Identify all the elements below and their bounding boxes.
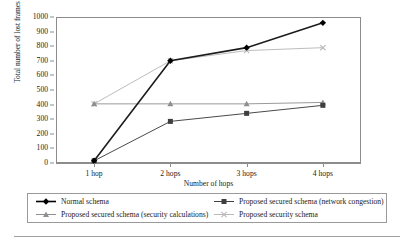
y-tick-label: 0 xyxy=(44,159,48,167)
y-tick-label: 900 xyxy=(37,28,48,36)
legend-label: Normal schema xyxy=(61,197,109,206)
x-tick-mark xyxy=(170,163,171,167)
y-tick-label: 300 xyxy=(37,115,48,123)
legend: Normal schema Proposed secured schema (n… xyxy=(27,193,387,223)
y-tick-mark xyxy=(50,90,54,91)
y-tick-label: 600 xyxy=(37,71,48,79)
series-1 xyxy=(92,103,326,163)
x-tick-mark xyxy=(247,163,248,167)
y-tick-label: 1000 xyxy=(33,13,48,21)
y-tick-mark xyxy=(50,148,54,149)
x-tick-label: 4 hops xyxy=(313,169,333,178)
figure: Total number of lost frames 100090080070… xyxy=(0,0,414,245)
y-tick-mark xyxy=(50,60,54,61)
x-tick-label: 1 hop xyxy=(86,169,103,178)
legend-item-network-congestion: Proposed secured schema (network congest… xyxy=(213,195,386,208)
x-tick-mark xyxy=(94,163,95,167)
x-axis-title: Number of hops xyxy=(56,179,361,188)
x-tick-label: 3 hops xyxy=(237,169,257,178)
x-axis-ticks: 1 hop2 hops3 hops4 hops xyxy=(56,163,361,179)
y-tick-mark xyxy=(50,17,54,18)
y-tick-mark xyxy=(50,104,54,105)
legend-item-normal-schema: Normal schema xyxy=(28,195,213,208)
y-tick-label: 800 xyxy=(37,42,48,50)
legend-row: Proposed secured schema (security calcul… xyxy=(28,208,386,221)
series-layer xyxy=(56,17,361,163)
series-0 xyxy=(91,20,326,164)
plot-area xyxy=(56,17,361,163)
y-tick-label: 400 xyxy=(37,101,48,109)
legend-marker-cross-icon xyxy=(213,209,235,220)
bottom-rule xyxy=(14,236,400,237)
y-tick-mark xyxy=(50,46,54,47)
y-tick-mark xyxy=(50,75,54,76)
y-tick-mark xyxy=(50,119,54,120)
x-tick-label: 2 hops xyxy=(160,169,180,178)
y-tick-mark xyxy=(50,31,54,32)
y-tick-label: 100 xyxy=(37,144,48,152)
series-2 xyxy=(91,99,326,106)
y-tick-label: 200 xyxy=(37,130,48,138)
y-tick-mark xyxy=(50,133,54,134)
legend-row: Normal schema Proposed secured schema (n… xyxy=(28,195,386,208)
legend-label: Proposed secured schema (security calcul… xyxy=(61,210,208,219)
legend-item-proposed-security-schema: Proposed security schema xyxy=(213,208,386,221)
y-tick-label: 700 xyxy=(37,57,48,65)
legend-marker-diamond-icon xyxy=(35,196,57,207)
y-tick-mark xyxy=(50,163,54,164)
legend-marker-triangle-icon xyxy=(35,209,57,220)
y-axis-ticks: 10009008007006005004003002001000 xyxy=(0,17,54,163)
legend-label: Proposed secured schema (network congest… xyxy=(239,197,384,206)
legend-item-security-calculations: Proposed secured schema (security calcul… xyxy=(28,208,213,221)
x-tick-mark xyxy=(323,163,324,167)
y-tick-label: 500 xyxy=(37,86,48,94)
legend-marker-square-icon xyxy=(213,196,235,207)
legend-label: Proposed security schema xyxy=(239,210,318,219)
